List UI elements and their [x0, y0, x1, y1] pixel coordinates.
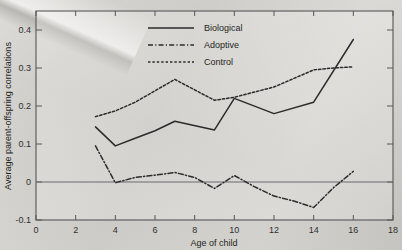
y-tick-label: 0.2	[18, 101, 31, 111]
y-tick-label: 0.3	[18, 63, 31, 73]
x-tick-label: 6	[152, 225, 157, 235]
x-tick-label: 12	[269, 225, 279, 235]
x-tick-label: 10	[229, 225, 239, 235]
line-chart: 024681012141618 -0.100.10.20.30.4 Biolog…	[0, 0, 402, 250]
x-axis-title: Age of child	[190, 238, 237, 248]
x-tick-label: 8	[192, 225, 197, 235]
legend-label-biological: Biological	[204, 23, 243, 33]
chart-page: 024681012141618 -0.100.10.20.30.4 Biolog…	[0, 0, 402, 250]
x-tick-label: 14	[309, 225, 319, 235]
legend-label-control: Control	[204, 57, 233, 67]
y-tick-label: -0.1	[15, 215, 31, 225]
y-tick-label: 0.4	[18, 25, 31, 35]
x-tick-label: 18	[388, 225, 398, 235]
y-tick-label: 0.1	[18, 139, 31, 149]
y-axis-title: Average parent-offspring correlations	[3, 42, 13, 190]
x-tick-label: 16	[348, 225, 358, 235]
x-tick-label: 0	[33, 225, 38, 235]
legend-label-adoptive: Adoptive	[204, 40, 239, 50]
y-tick-label: 0	[26, 177, 31, 187]
x-tick-label: 4	[113, 225, 118, 235]
x-tick-label: 2	[73, 225, 78, 235]
